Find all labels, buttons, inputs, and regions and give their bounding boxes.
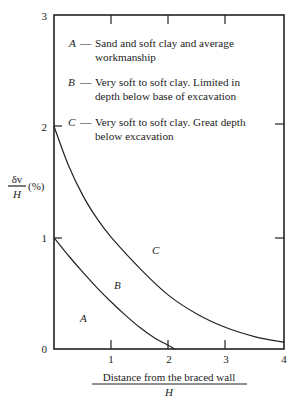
- settlement-chart: 3 2 1 0 1 2 3 4 Distance from the braced…: [0, 0, 303, 406]
- x-tick-label: 3: [223, 353, 229, 365]
- legend-c-line-1: Very soft to soft clay. Great depth: [95, 116, 246, 128]
- x-tick-label: 4: [281, 353, 287, 365]
- y-tick-label: 3: [42, 10, 48, 22]
- x-tick-label: 1: [108, 353, 114, 365]
- zone-label-c: C: [152, 244, 160, 256]
- plot-frame: [54, 15, 284, 349]
- legend-key-b: B: [68, 76, 75, 88]
- legend-b-line-2: depth below base of excavation: [95, 90, 236, 102]
- legend-dash: —: [79, 37, 92, 49]
- legend-dash: —: [79, 116, 92, 128]
- y-axis-label-numerator: δv: [12, 173, 23, 185]
- legend-key-a: A: [68, 37, 76, 49]
- y-tick-label: 1: [42, 232, 48, 244]
- legend-c-line-2: below excavation: [95, 130, 174, 142]
- zone-label-a: A: [79, 312, 87, 324]
- x-axis-label-denominator: H: [164, 386, 174, 398]
- x-axis-label-numerator: Distance from the braced wall: [103, 371, 236, 383]
- y-axis-label-unit: (%): [28, 180, 45, 193]
- legend-b-line-1: Very soft to soft clay. Limited in: [95, 76, 240, 88]
- legend-a-line-2: workmanship: [95, 51, 156, 63]
- x-tick-label: 2: [166, 353, 172, 365]
- y-tick-label: 0: [42, 343, 48, 355]
- y-axis-label-denominator: H: [12, 188, 22, 200]
- zone-label-b: B: [114, 279, 121, 291]
- legend: A — Sand and soft clay and average workm…: [68, 37, 246, 142]
- y-tick-label: 2: [42, 121, 48, 133]
- legend-key-c: C: [68, 116, 76, 128]
- legend-dash: —: [79, 76, 92, 88]
- curve-boundary-b-c: [54, 126, 284, 342]
- legend-a-line-1: Sand and soft clay and average: [95, 37, 234, 49]
